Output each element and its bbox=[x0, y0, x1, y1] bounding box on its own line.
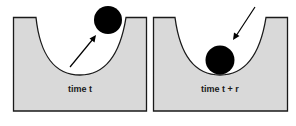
arrow-down-left-icon bbox=[236, 7, 255, 36]
panel-time-t-plus-r: time t + r bbox=[154, 7, 288, 111]
diagram: time t time t + r bbox=[0, 0, 296, 126]
panel-label-time-t: time t bbox=[68, 84, 92, 94]
arrowhead-icon bbox=[233, 33, 240, 41]
well-block-left bbox=[14, 18, 147, 112]
panel-label-time-t-plus-r: time t + r bbox=[201, 84, 239, 94]
ball-right bbox=[206, 46, 235, 75]
panel-time-t: time t bbox=[14, 6, 147, 111]
arrow-up-right-icon bbox=[70, 39, 93, 67]
ball-left bbox=[94, 6, 122, 34]
